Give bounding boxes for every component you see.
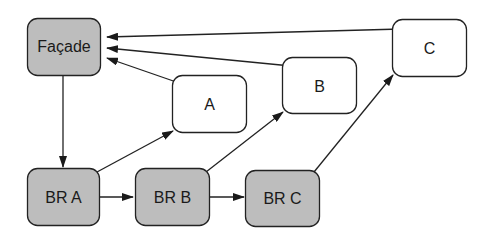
edge-c-to-facade — [107, 29, 401, 37]
node-br-c-label: BR C — [263, 190, 301, 207]
node-b-label: B — [314, 78, 325, 95]
node-a[interactable]: A — [173, 76, 247, 133]
node-br-b-label: BR B — [154, 189, 191, 206]
node-a-label: A — [204, 96, 215, 113]
node-br-a[interactable]: BR A — [28, 169, 100, 226]
edge-bra-to-a — [97, 131, 173, 172]
node-c-label: C — [424, 40, 436, 57]
node-facade[interactable]: Façade — [28, 19, 101, 76]
node-facade-label: Façade — [37, 38, 90, 55]
diagram-canvas: Façade A B C BR A BR B BR C — [0, 0, 491, 239]
node-br-c[interactable]: BR C — [246, 171, 320, 227]
edge-a-to-facade — [107, 58, 182, 84]
edge-b-to-facade — [107, 48, 291, 66]
node-br-b[interactable]: BR B — [136, 169, 210, 226]
node-c[interactable]: C — [393, 20, 467, 77]
node-b[interactable]: B — [283, 58, 357, 114]
node-br-a-label: BR A — [45, 189, 82, 206]
